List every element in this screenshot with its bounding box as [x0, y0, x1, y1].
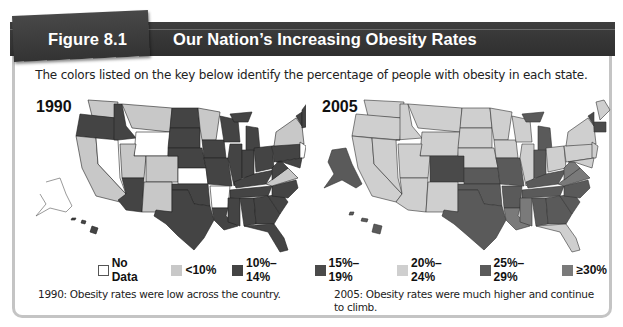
state-fl	[536, 224, 580, 252]
legend-item-25-29: 25%–29%	[480, 256, 546, 284]
state-hi-3	[71, 218, 76, 220]
state-in	[534, 150, 546, 178]
legend-item-10-14: 10%–14%	[232, 256, 298, 284]
state-ne-new	[302, 102, 306, 128]
state-mo	[204, 158, 232, 186]
legend-swatch	[480, 265, 491, 276]
legend-swatch	[397, 265, 408, 276]
state-ks	[178, 168, 208, 184]
legend-label: ≥30%	[576, 263, 607, 277]
state-co	[146, 156, 178, 182]
state-al	[240, 198, 256, 226]
legend-swatch	[232, 265, 243, 276]
figure-label: Figure 8.1	[48, 30, 127, 49]
legend-item-30-plus: ≥30%	[562, 263, 607, 277]
legend-swatch	[171, 265, 182, 276]
state-ms	[520, 198, 532, 226]
legend-item-20-24: 20%–24%	[397, 256, 463, 284]
state-al	[532, 198, 548, 226]
state-nj	[300, 142, 306, 158]
state-wy	[420, 132, 460, 156]
state-or	[352, 114, 402, 140]
state-mn	[198, 108, 220, 140]
state-ms	[228, 198, 240, 226]
state-mo	[496, 158, 524, 186]
legend-label: 15%–19%	[329, 256, 382, 284]
state-ne	[458, 148, 498, 168]
state-hi	[90, 226, 98, 234]
state-mi-up	[230, 112, 252, 122]
state-fl	[244, 224, 288, 252]
state-hi	[372, 224, 382, 234]
state-hi-2	[361, 218, 368, 222]
state-nd	[170, 108, 200, 128]
legend-swatch-no-data	[98, 265, 109, 276]
state-ak	[36, 178, 72, 216]
state-mt	[408, 104, 462, 132]
caption-1990: 1990: Obesity rates were low across the …	[38, 288, 298, 301]
legend-item-under-10: <10%	[171, 263, 216, 277]
state-nj	[592, 142, 598, 158]
state-ar	[210, 186, 230, 208]
state-mi-up	[522, 112, 544, 122]
caption-2005: 2005: Obesity rates were much higher and…	[334, 288, 606, 314]
state-hi-2	[81, 220, 86, 224]
figure-title: Our Nation’s Increasing Obesity Rates	[173, 30, 477, 49]
state-nm	[426, 182, 458, 212]
state-sd	[458, 128, 492, 148]
state-nd	[460, 108, 492, 128]
state-me	[596, 100, 610, 120]
us-map-1990	[26, 98, 306, 253]
state-ma-ct	[594, 122, 606, 132]
state-oh	[254, 146, 274, 172]
state-or	[76, 114, 116, 140]
legend-item-15-19: 15%–19%	[315, 256, 381, 284]
intro-text: The colors listed on the key below ident…	[0, 68, 623, 82]
legend-label: 20%–24%	[411, 256, 464, 284]
legend-swatch	[562, 265, 573, 276]
state-ia	[202, 140, 226, 158]
state-ks	[464, 168, 500, 184]
legend-label: No Data	[112, 256, 156, 284]
state-mn	[490, 108, 512, 140]
state-hi-3	[349, 212, 354, 215]
state-nm	[142, 182, 172, 212]
state-oh	[546, 146, 566, 172]
map-legend: No Data <10% 10%–14% 15%–19% 20%–24% 25%…	[98, 256, 623, 284]
state-wy	[134, 132, 170, 156]
legend-item-no-data: No Data	[98, 256, 155, 284]
legend-label: <10%	[185, 263, 216, 277]
state-mt	[122, 104, 172, 132]
legend-label: 10%–14%	[246, 256, 299, 284]
legend-swatch	[315, 265, 326, 276]
us-map-2005	[312, 98, 612, 253]
state-sd	[168, 128, 200, 148]
state-in	[242, 150, 254, 178]
legend-label: 25%–29%	[494, 256, 547, 284]
state-co	[430, 156, 464, 182]
state-ar	[502, 186, 522, 208]
state-ia	[494, 140, 518, 158]
